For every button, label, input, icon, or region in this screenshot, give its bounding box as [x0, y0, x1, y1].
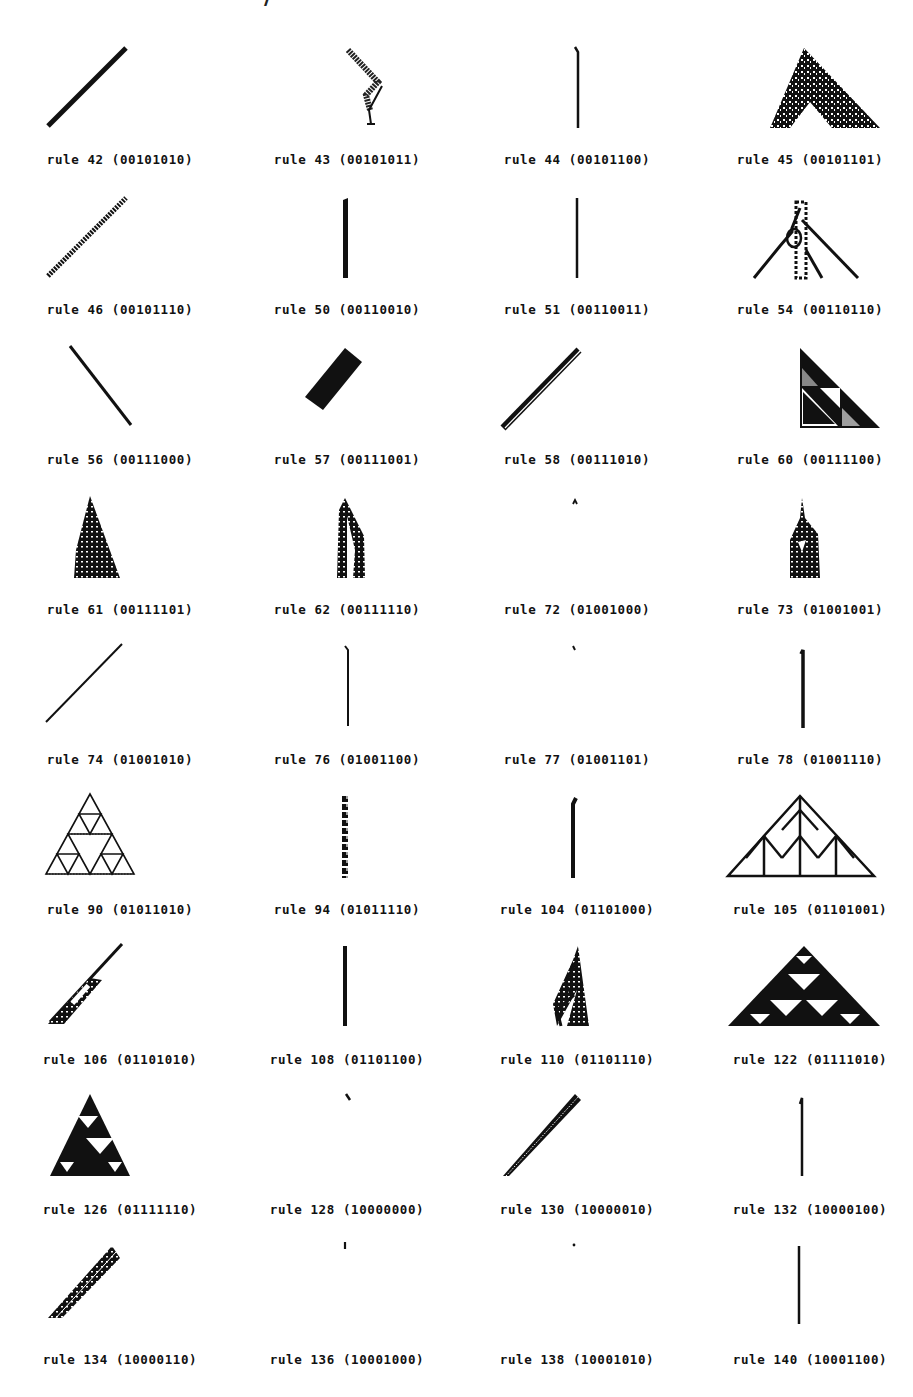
pattern-label: rule 50 (00110010) — [247, 302, 447, 317]
rule-61-pattern — [20, 490, 220, 600]
pattern-label: rule 45 (00101101) — [710, 152, 910, 167]
rule-105-pattern — [710, 790, 910, 900]
pattern-label: rule 77 (01001101) — [477, 752, 677, 767]
rule-134-pattern — [20, 1240, 220, 1350]
pattern-label: rule 122 (01111010) — [710, 1052, 910, 1067]
pattern-cell-rule-51: rule 51 (00110011) — [477, 190, 677, 330]
rule-136-pattern — [247, 1240, 447, 1350]
rule-73-pattern — [710, 490, 910, 600]
pattern-cell-rule-62: rule 62 (00111110) — [247, 490, 447, 630]
pattern-cell-rule-76: rule 76 (01001100) — [247, 640, 447, 780]
rule-77-pattern — [477, 640, 677, 750]
pattern-label: rule 74 (01001010) — [20, 752, 220, 767]
rule-106-pattern — [20, 940, 220, 1050]
pattern-cell-rule-105: rule 105 (01101001) — [710, 790, 910, 930]
rule-76-pattern — [247, 640, 447, 750]
rule-74-pattern — [20, 640, 220, 750]
pattern-label: rule 104 (01101000) — [477, 902, 677, 917]
pattern-cell-rule-60: rule 60 (00111100) — [710, 340, 910, 480]
pattern-cell-rule-126: rule 126 (01111110) — [20, 1090, 220, 1230]
pattern-cell-rule-50: rule 50 (00110010) — [247, 190, 447, 330]
pattern-label: rule 140 (10001100) — [710, 1352, 910, 1367]
rule-56-pattern — [20, 340, 220, 450]
pattern-label: rule 90 (01011010) — [20, 902, 220, 917]
rule-130-pattern — [477, 1090, 677, 1200]
pattern-cell-rule-54: rule 54 (00110110) — [710, 190, 910, 330]
pattern-cell-rule-72: rule 72 (01001000) — [477, 490, 677, 630]
pattern-cell-rule-110: rule 110 (01101110) — [477, 940, 677, 1080]
pattern-label: rule 106 (01101010) — [20, 1052, 220, 1067]
rule-44-pattern — [477, 40, 677, 150]
pattern-cell-rule-90: rule 90 (01011010) — [20, 790, 220, 930]
pattern-label: rule 44 (00101100) — [477, 152, 677, 167]
pattern-label: rule 130 (10000010) — [477, 1202, 677, 1217]
pattern-label: rule 132 (10000100) — [710, 1202, 910, 1217]
rule-108-pattern — [247, 940, 447, 1050]
pattern-label: rule 51 (00110011) — [477, 302, 677, 317]
pattern-cell-rule-73: rule 73 (01001001) — [710, 490, 910, 630]
pattern-cell-rule-136: rule 136 (10001000) — [247, 1240, 447, 1380]
pattern-cell-rule-138: rule 138 (10001010) — [477, 1240, 677, 1380]
rule-46-pattern — [20, 190, 220, 300]
pattern-cell-rule-134: rule 134 (10000110) — [20, 1240, 220, 1380]
pattern-label: rule 73 (01001001) — [710, 602, 910, 617]
pattern-cell-rule-122: rule 122 (01111010) — [710, 940, 910, 1080]
rule-72-pattern — [477, 490, 677, 600]
rule-45-pattern — [710, 40, 910, 150]
pattern-label: rule 61 (00111101) — [20, 602, 220, 617]
rule-60-pattern — [710, 340, 910, 450]
rule-90-pattern — [20, 790, 220, 900]
pattern-cell-rule-78: rule 78 (01001110) — [710, 640, 910, 780]
pattern-label: rule 62 (00111110) — [247, 602, 447, 617]
pattern-cell-rule-77: rule 77 (01001101) — [477, 640, 677, 780]
pattern-label: rule 78 (01001110) — [710, 752, 910, 767]
pattern-cell-rule-94: rule 94 (01011110) — [247, 790, 447, 930]
pattern-label: rule 134 (10000110) — [20, 1352, 220, 1367]
pattern-label: rule 43 (00101011) — [247, 152, 447, 167]
pattern-label: rule 105 (01101001) — [710, 902, 910, 917]
pattern-label: rule 128 (10000000) — [247, 1202, 447, 1217]
rule-51-pattern — [477, 190, 677, 300]
pattern-cell-rule-57: rule 57 (00111001) — [247, 340, 447, 480]
pattern-cell-rule-58: rule 58 (00111010) — [477, 340, 677, 480]
pattern-label: rule 46 (00101110) — [20, 302, 220, 317]
rule-62-pattern — [247, 490, 447, 600]
rule-126-pattern — [20, 1090, 220, 1200]
pattern-label: rule 110 (01101110) — [477, 1052, 677, 1067]
pattern-label: rule 136 (10001000) — [247, 1352, 447, 1367]
pattern-cell-rule-74: rule 74 (01001010) — [20, 640, 220, 780]
pattern-cell-rule-140: rule 140 (10001100) — [710, 1240, 910, 1380]
pattern-cell-rule-104: rule 104 (01101000) — [477, 790, 677, 930]
rule-132-pattern — [710, 1090, 910, 1200]
pattern-cell-rule-43: rule 43 (00101011) — [247, 40, 447, 180]
pattern-label: rule 54 (00110110) — [710, 302, 910, 317]
rule-58-pattern — [477, 340, 677, 450]
pattern-cell-rule-61: rule 61 (00111101) — [20, 490, 220, 630]
pattern-label: rule 58 (00111010) — [477, 452, 677, 467]
pattern-cell-rule-46: rule 46 (00101110) — [20, 190, 220, 330]
pattern-cell-rule-42: rule 42 (00101010) — [20, 40, 220, 180]
rule-104-pattern — [477, 790, 677, 900]
rule-pattern-grid: rule 42 (00101010) rule 43 (00101011) ru… — [0, 0, 913, 1397]
rule-110-pattern — [477, 940, 677, 1050]
rule-57-pattern — [247, 340, 447, 450]
rule-78-pattern — [710, 640, 910, 750]
rule-138-pattern — [477, 1240, 677, 1350]
pattern-cell-rule-108: rule 108 (01101100) — [247, 940, 447, 1080]
pattern-label: rule 42 (00101010) — [20, 152, 220, 167]
pattern-label: rule 72 (01001000) — [477, 602, 677, 617]
pattern-label: rule 57 (00111001) — [247, 452, 447, 467]
rule-54-pattern — [710, 190, 910, 300]
rule-122-pattern — [710, 940, 910, 1050]
pattern-cell-rule-132: rule 132 (10000100) — [710, 1090, 910, 1230]
pattern-label: rule 76 (01001100) — [247, 752, 447, 767]
pattern-label: rule 138 (10001010) — [477, 1352, 677, 1367]
rule-50-pattern — [247, 190, 447, 300]
pattern-cell-rule-130: rule 130 (10000010) — [477, 1090, 677, 1230]
pattern-label: rule 60 (00111100) — [710, 452, 910, 467]
pattern-label: rule 108 (01101100) — [247, 1052, 447, 1067]
pattern-label: rule 56 (00111000) — [20, 452, 220, 467]
pattern-label: rule 126 (01111110) — [20, 1202, 220, 1217]
pattern-cell-rule-45: rule 45 (00101101) — [710, 40, 910, 180]
rule-94-pattern — [247, 790, 447, 900]
